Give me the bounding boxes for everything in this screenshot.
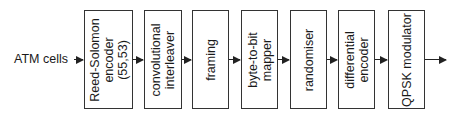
block-label-line: convolutional [149,23,163,96]
block-label-line: Reed-Solomon [88,18,102,101]
block-convolutional-interleaver: convolutional interleaver [144,10,182,109]
block-randomiser: randomiser [290,10,327,109]
block-label-line: byte-to-bit [246,32,260,88]
block-reed-solomon-encoder: Reed-Solomon encoder (55,53) [84,10,133,109]
block-label-line: encoder [357,31,371,88]
block-differential-encoder: differential encoder [338,10,375,109]
block-byte-to-bit-mapper: byte-to-bit mapper [241,10,278,109]
block-qpsk-modulator: QPSK modulator [388,10,425,109]
arrow-2 [182,59,191,60]
arrow-input [74,59,83,60]
arrow-6 [375,59,387,60]
block-label-line: (55,53) [116,18,130,101]
arrow-1 [133,59,143,60]
block-label-line: interleaver [163,23,177,96]
block-label-line: differential [343,31,357,88]
arrow-output [425,59,446,60]
block-label-line: randomiser [302,28,316,91]
arrow-3 [229,59,240,60]
block-label-line: QPSK modulator [400,13,414,107]
arrow-5 [327,59,337,60]
arrow-4 [278,59,289,60]
input-label: ATM cells [14,52,68,66]
block-label-line: framing [204,39,218,81]
block-framing: framing [192,10,229,109]
block-label-line: encoder [102,18,116,101]
block-label-line: mapper [260,32,274,88]
